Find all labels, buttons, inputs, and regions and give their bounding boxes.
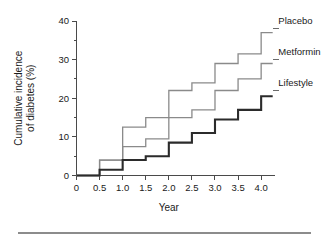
y-axis-title-line-1: Cumulative incidence (13, 50, 24, 145)
x-axis-tick-labels: 00.51.01.52.02.53.03.54.0 (74, 182, 268, 193)
y-axis-tick-labels: 010203040 (58, 15, 69, 181)
x-tick-label: 3.0 (208, 182, 221, 193)
y-tick-label: 10 (58, 131, 69, 142)
x-tick-label: 1.5 (139, 182, 152, 193)
y-axis-ticks (72, 21, 77, 176)
y-tick-label: 0 (64, 170, 69, 181)
x-tick-label: 3.5 (231, 182, 244, 193)
x-tick-label: 2.0 (162, 182, 175, 193)
y-tick-label: 30 (58, 54, 69, 65)
series-step-metformin (77, 63, 273, 175)
series-label-placebo: Placebo (278, 15, 312, 26)
y-tick-label: 20 (58, 93, 69, 104)
series-step-placebo (77, 33, 273, 176)
series-label-lifestyle: Lifestyle (278, 77, 313, 88)
x-axis-ticks (77, 176, 262, 181)
series-labels: PlaceboMetforminLifestyle (278, 15, 320, 88)
x-tick-label: 0 (74, 182, 79, 193)
x-axis-title: Year (159, 202, 180, 213)
chart-svg: 010203040 00.51.01.52.02.53.03.54.0 Plac… (0, 0, 329, 238)
series-step-lifestyle (77, 96, 273, 175)
x-tick-label: 2.5 (185, 182, 198, 193)
y-axis-title-line-2: of diabetes (%) (25, 65, 36, 132)
chart-figure: 010203040 00.51.01.52.02.53.03.54.0 Plac… (0, 0, 329, 238)
series-label-metformin: Metformin (278, 46, 320, 57)
x-axis-group: 00.51.01.52.02.53.03.54.0 (74, 176, 275, 193)
x-tick-label: 4.0 (255, 182, 268, 193)
y-axis-title: Cumulative incidence of diabetes (%) (13, 50, 36, 145)
y-axis-group: 010203040 (58, 15, 76, 181)
series-step-curves (77, 33, 273, 176)
y-tick-label: 40 (58, 15, 69, 26)
x-tick-label: 1.0 (116, 182, 129, 193)
x-tick-label: 0.5 (93, 182, 106, 193)
